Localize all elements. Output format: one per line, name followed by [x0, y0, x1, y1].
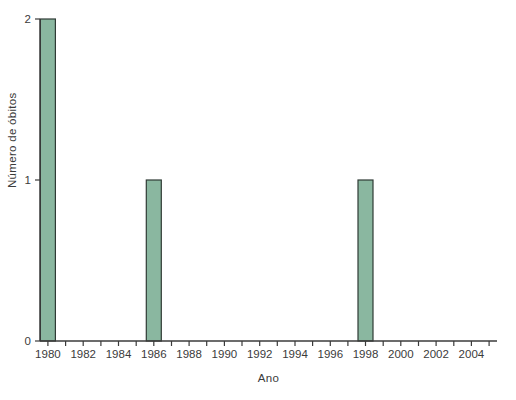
y-tick-label-0: 0	[25, 335, 31, 347]
x-tick-label-1994: 1994	[282, 348, 308, 360]
x-tick-label-2002: 2002	[423, 348, 449, 360]
bar-chart: 1980198219841986198819901992199419961998…	[0, 0, 516, 400]
x-tick-label-1990: 1990	[212, 348, 238, 360]
x-tick-label-1988: 1988	[176, 348, 202, 360]
x-tick-label-1998: 1998	[353, 348, 379, 360]
y-tick-label-2: 2	[25, 13, 31, 25]
y-tick-label-1: 1	[25, 174, 31, 186]
x-tick-label-1984: 1984	[106, 348, 132, 360]
bar-1986	[146, 180, 161, 341]
x-axis-title: Ano	[40, 372, 497, 384]
chart-container: 1980198219841986198819901992199419961998…	[0, 0, 516, 400]
x-tick-label-2000: 2000	[388, 348, 414, 360]
x-tick-label-1992: 1992	[247, 348, 273, 360]
x-tick-label-2004: 2004	[459, 348, 485, 360]
y-axis-title: Número de óbitos	[6, 172, 18, 188]
bar-1998	[358, 180, 373, 341]
x-tick-label-1980: 1980	[35, 348, 61, 360]
x-tick-label-1986: 1986	[141, 348, 167, 360]
bar-1980	[40, 19, 55, 341]
x-tick-label-1982: 1982	[70, 348, 96, 360]
x-tick-label-1996: 1996	[318, 348, 344, 360]
